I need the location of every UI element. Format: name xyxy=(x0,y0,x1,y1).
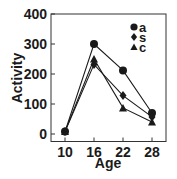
y-tick-label: 100 xyxy=(24,96,48,112)
triangle-marker-icon xyxy=(148,118,156,126)
y-tick-label: 200 xyxy=(24,66,48,82)
diamond-marker-icon xyxy=(131,33,137,41)
legend: asc xyxy=(130,20,147,55)
y-axis: 0100200300400 xyxy=(24,6,55,142)
x-tick-label: 28 xyxy=(144,144,160,160)
x-axis-title: Age xyxy=(95,155,122,171)
triangle-marker-icon xyxy=(119,104,127,112)
y-tick-label: 300 xyxy=(24,36,48,52)
series-line-a xyxy=(65,44,152,132)
circle-marker-icon xyxy=(90,40,98,48)
y-axis-title: Activity xyxy=(9,53,25,104)
y-tick-label: 0 xyxy=(39,126,47,142)
x-tick-label: 10 xyxy=(57,144,73,160)
circle-marker-icon xyxy=(130,23,137,30)
circle-marker-icon xyxy=(119,66,127,74)
series-line-c xyxy=(65,59,152,132)
triangle-marker-icon xyxy=(130,43,137,50)
legend-label-c: c xyxy=(139,40,146,55)
series-lines xyxy=(65,44,152,132)
line-chart: 0100200300400 10162228 Activity Age asc xyxy=(0,0,177,179)
y-tick-label: 400 xyxy=(24,6,48,22)
triangle-marker-icon xyxy=(90,55,98,63)
